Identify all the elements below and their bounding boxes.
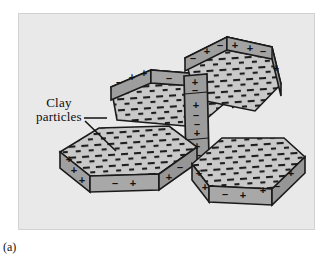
svg-text:–: – (116, 76, 122, 88)
plate-edge-front (90, 174, 159, 192)
svg-text:+: + (79, 174, 85, 186)
svg-text:+: + (247, 42, 253, 54)
svg-text:–: – (166, 72, 172, 84)
svg-text:+: + (130, 177, 136, 189)
callout-label-line2: particles (36, 110, 82, 124)
svg-text:–: – (177, 161, 183, 173)
particle-bottom-left: + + + – + + – (60, 126, 197, 192)
svg-text:+: + (202, 181, 208, 193)
svg-text:–: – (222, 188, 228, 200)
callout-label-line1: Clay (36, 96, 82, 110)
svg-text:+: + (196, 167, 202, 179)
svg-text:+: + (204, 45, 210, 57)
svg-text:–: – (190, 52, 196, 64)
svg-text:–: – (192, 84, 198, 96)
figure-caption: (a) (3, 240, 16, 255)
figure-root: – + + – + + – + – + + (0, 0, 328, 261)
svg-text:+: + (273, 62, 279, 74)
svg-text:–: – (274, 180, 280, 192)
svg-text:+: + (288, 167, 294, 179)
svg-text:+: + (166, 171, 172, 183)
svg-text:–: – (260, 45, 266, 57)
svg-text:+: + (240, 189, 246, 201)
svg-text:+: + (194, 127, 200, 139)
callout-label: Clay particles (36, 96, 82, 124)
svg-text:+: + (71, 164, 77, 176)
svg-text:–: – (217, 39, 223, 51)
svg-text:+: + (129, 71, 135, 83)
svg-text:+: + (260, 184, 266, 196)
svg-text:+: + (141, 67, 147, 79)
svg-text:+: + (232, 39, 238, 51)
svg-text:–: – (112, 177, 118, 189)
